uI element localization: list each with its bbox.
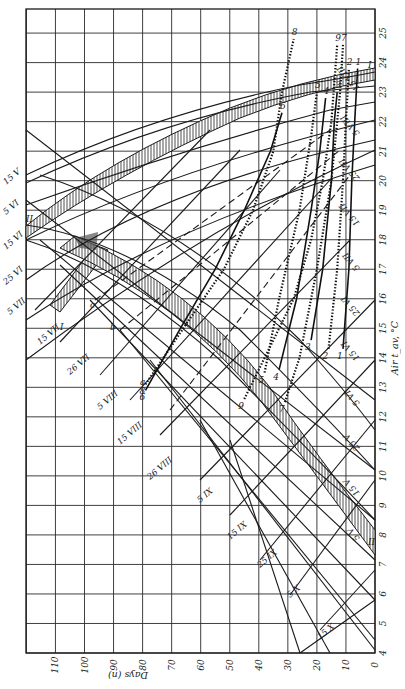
date-diagonal bbox=[60, 265, 375, 560]
temp-tick-label: 4 bbox=[378, 650, 388, 657]
temp-tick-label: 13 bbox=[378, 381, 388, 393]
temp-tick-label: 25 bbox=[378, 27, 388, 40]
day-tick-label: 60 bbox=[196, 659, 206, 671]
curve-label-4: 4 bbox=[272, 372, 279, 382]
temp-tick-label: 20 bbox=[378, 175, 388, 188]
temp-tick-label: 14 bbox=[378, 352, 388, 364]
curve-label-7: 7 bbox=[279, 404, 285, 414]
date-label-left: 25 IX bbox=[254, 547, 279, 571]
temp-tick-label: 21 bbox=[378, 145, 388, 157]
temp-tick-label: 11 bbox=[378, 441, 388, 452]
day-tick-label: 90 bbox=[109, 659, 119, 671]
temp-tick-label: 12 bbox=[378, 411, 388, 423]
curve-end-label-3: 3 bbox=[335, 80, 341, 90]
temp-tick-label: 10 bbox=[378, 470, 388, 482]
date-label-right: 25 VI bbox=[339, 294, 363, 319]
temp-tick-label: 17 bbox=[378, 263, 388, 275]
temp-tick-label: 16 bbox=[378, 293, 388, 305]
curve-end-label-5: 5 bbox=[315, 80, 321, 90]
day-tick-label: 110 bbox=[50, 656, 60, 673]
curve-label-9: 9 bbox=[238, 401, 244, 411]
date-label-left: 5 VII bbox=[5, 295, 28, 317]
date-label-left: 26 VII bbox=[64, 352, 92, 378]
day-tick-label: 50 bbox=[225, 659, 235, 671]
date-label-left: 15 VII bbox=[35, 322, 62, 347]
dashed-label-b: b bbox=[110, 322, 116, 332]
date-label-right: 5 VIII bbox=[338, 113, 362, 139]
dashed-label-a: a bbox=[140, 377, 145, 387]
date-label-left: 15 IX bbox=[225, 519, 250, 542]
day-tick-label: 10 bbox=[341, 659, 351, 671]
curve-end-label-9: 9 bbox=[335, 33, 341, 43]
y-axis-title: Air t_av, °C bbox=[389, 320, 401, 376]
date-label-left: 5 VI bbox=[1, 197, 21, 216]
temp-tick-label: 5 bbox=[378, 620, 388, 626]
band-label-I: I bbox=[59, 322, 64, 332]
curve-end-label-1: 1 bbox=[356, 57, 362, 67]
temp-tick-label: 9 bbox=[378, 502, 388, 508]
date-label-right: 5 VII bbox=[340, 250, 362, 273]
day-tick-label: 20 bbox=[312, 659, 322, 672]
temp-tick-label: 23 bbox=[378, 86, 388, 99]
date-label-left: 5 VIII bbox=[95, 388, 121, 412]
nomogram-chart: 112233445566778899abc15 V5 VI15 VI25 VI5… bbox=[0, 0, 405, 689]
temp-tick-label: 18 bbox=[378, 234, 388, 246]
curve-label-1: 1 bbox=[337, 351, 343, 361]
band-label-II: II bbox=[25, 214, 34, 224]
day-tick-label: 70 bbox=[167, 659, 177, 671]
date-label-left: 5 IX bbox=[195, 485, 216, 505]
temp-tick-label: 24 bbox=[378, 57, 388, 70]
date-label-left: 15 V bbox=[1, 166, 23, 187]
curve-end-label-6: 6 bbox=[280, 101, 286, 111]
temp-tick-label: 7 bbox=[378, 561, 388, 567]
day-tick-label: 80 bbox=[138, 659, 148, 671]
date-label-left: 26 VIII bbox=[144, 454, 174, 482]
curve-label-2: 2 bbox=[322, 351, 329, 361]
date-label-left: 15 VI bbox=[1, 229, 26, 252]
curve-label-5: 5 bbox=[259, 375, 265, 385]
day-tick-label: 30 bbox=[283, 659, 293, 671]
curve-end-label-2: 2 bbox=[346, 57, 353, 67]
temp-tick-label: 8 bbox=[378, 532, 388, 538]
date-label-left: 15 VIII bbox=[115, 419, 145, 446]
band-label-II: II bbox=[367, 537, 376, 547]
day-tick-label: 0 bbox=[370, 662, 380, 668]
days-axis-ticks: 1101009080706050403020100 bbox=[50, 656, 380, 673]
date-diagonal-rising bbox=[320, 570, 375, 630]
curve-3 bbox=[311, 92, 337, 340]
temp-tick-label: 22 bbox=[378, 116, 388, 129]
temp-tick-label: 19 bbox=[378, 204, 388, 216]
temperature-axis-ticks: 45678910111213141516171819202122232425 bbox=[378, 27, 388, 657]
dashed-label-c: c bbox=[90, 300, 95, 310]
day-tick-label: 100 bbox=[80, 656, 90, 673]
band-label-I: I bbox=[367, 60, 372, 70]
labels: 112233445566778899abc15 V5 VI15 VI25 VI5… bbox=[0, 27, 375, 642]
date-label-right: 25 V bbox=[341, 431, 362, 454]
date-label-left: 25 VI bbox=[0, 264, 25, 288]
temp-tick-label: 6 bbox=[378, 591, 388, 597]
curve-label-3: 3 bbox=[305, 342, 311, 352]
curve-label-8: 8 bbox=[140, 386, 146, 396]
curve-end-label-8: 8 bbox=[292, 27, 298, 37]
curve-end-label-4: 4 bbox=[323, 86, 330, 96]
day-tick-label: 40 bbox=[254, 659, 264, 672]
x-axis-title: Days (n) bbox=[108, 670, 149, 681]
curve-end-label-7: 7 bbox=[341, 33, 347, 43]
temp-tick-label: 15 bbox=[378, 322, 388, 334]
date-diagonal bbox=[230, 440, 300, 653]
date-label-right: 5 VI bbox=[342, 388, 361, 408]
